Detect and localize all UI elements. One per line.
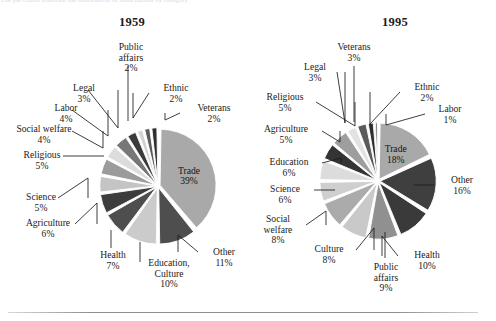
slice-label-1959-ethnic: Ethnic 2% xyxy=(152,83,200,104)
slice-label-1959-public-affairs: Public affairs 2% xyxy=(101,42,161,74)
slice-label-1959-religious: Religious 5% xyxy=(13,150,71,171)
slice-label-1959-other: Other 11% xyxy=(202,247,246,268)
slice-label-1959-education: Education, Culture 10% xyxy=(138,258,200,290)
slice-label-1959-veterans: Veterans 2% xyxy=(186,103,242,124)
pie-1995-leader-line xyxy=(322,131,340,142)
slice-label-1995-other: Other 16% xyxy=(438,175,486,196)
footer-divider-rule xyxy=(8,312,478,313)
slice-label-1959-legal: Legal 3% xyxy=(62,83,106,104)
slice-label-1995-ethnic: Ethnic 2% xyxy=(403,82,451,103)
pie-1995-leader-line xyxy=(316,102,355,126)
slice-label-1995-culture: Culture 8% xyxy=(305,244,353,265)
pie-chart-figure: The pie charts illustrate the distributi… xyxy=(0,0,496,321)
pie-1995-inside-pct-trade: 18% xyxy=(387,154,405,165)
slice-label-1959-science: Science 5% xyxy=(14,192,68,213)
slice-label-1995-education: Education 6% xyxy=(258,157,320,178)
pie-chart-1995: Trade18% xyxy=(0,0,496,321)
pie-1995-leader-line xyxy=(306,211,326,225)
slice-label-1995-veterans: Veterans 3% xyxy=(325,42,383,63)
pie-1995-inside-label-trade: Trade xyxy=(385,143,407,154)
pie-1995-leader-line xyxy=(382,236,398,256)
slice-label-1959-social-welfare: Social welfare 4% xyxy=(3,124,85,145)
slice-label-1995-science: Science 6% xyxy=(258,184,312,205)
pie-1995-leader-line xyxy=(386,114,425,125)
slice-label-1959-labor: Labor 4% xyxy=(44,103,88,124)
slice-label-1959-health: Health 7% xyxy=(91,250,135,271)
slice-label-1995-public-affairs: Public affairs 9% xyxy=(360,262,412,294)
slice-label-1959-agriculture: Agriculture 6% xyxy=(14,218,82,239)
slice-label-1995-religious: Religious 5% xyxy=(256,92,314,113)
pie-1995-leader-line xyxy=(370,92,400,124)
slice-label-1995-labor: Labor 1% xyxy=(428,104,472,125)
slice-label-1995-legal: Legal 3% xyxy=(293,62,337,83)
slice-label-1995-social-welfare: Social welfare 8% xyxy=(252,214,304,246)
slice-label-1995-agriculture: Agriculture 5% xyxy=(252,124,320,145)
